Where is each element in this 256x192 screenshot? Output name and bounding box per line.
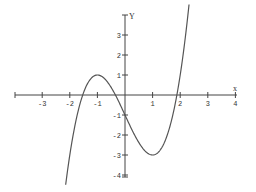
y-axis-label: Y <box>129 12 135 21</box>
x-tick-label: 4 <box>233 100 237 108</box>
x-tick-label: 2 <box>178 100 182 108</box>
x-tick-label: -2 <box>66 100 74 108</box>
x-tick-label: -1 <box>93 100 101 108</box>
function-plot: -3-2-11234321-1-2-3-4 x Y <box>0 0 256 192</box>
y-tick-label: -3 <box>113 152 121 160</box>
y-tick-label: -2 <box>113 132 121 140</box>
y-tick-label: 2 <box>117 52 121 60</box>
x-tick-label: -3 <box>38 100 46 108</box>
y-tick-label: 3 <box>117 32 121 40</box>
tick-labels: -3-2-11234321-1-2-3-4 <box>38 32 238 180</box>
x-tick-label: 3 <box>206 100 210 108</box>
x-tick-label: 1 <box>150 100 154 108</box>
y-tick-label: -1 <box>113 112 121 120</box>
y-tick-label: 1 <box>117 72 121 80</box>
x-axis-label: x <box>233 84 237 93</box>
y-tick-label: -4 <box>113 172 121 180</box>
axes <box>15 15 237 177</box>
